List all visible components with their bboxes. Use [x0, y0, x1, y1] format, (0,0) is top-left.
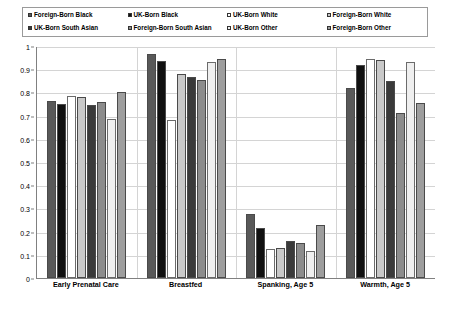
- bar: [57, 104, 66, 278]
- chart-legend: Foreign-Born BlackUK-Born BlackUK-Born W…: [22, 7, 428, 37]
- y-axis-tick-label: 0.5: [20, 160, 30, 167]
- y-axis-tick-mark: [31, 279, 34, 280]
- legend-label: UK-Born South Asian: [34, 25, 98, 31]
- y-axis-tick-mark: [31, 209, 34, 210]
- bar: [276, 248, 285, 278]
- bar: [266, 249, 275, 278]
- bar: [416, 103, 425, 278]
- y-axis-tick-mark: [31, 116, 34, 117]
- legend-item: UK-Born Other: [225, 25, 325, 31]
- bar: [47, 101, 56, 278]
- y-axis-tick-mark: [31, 93, 34, 94]
- bar-group: [137, 47, 237, 278]
- y-axis-tick-label: 0.3: [20, 206, 30, 213]
- bar: [207, 62, 216, 278]
- bar: [306, 251, 315, 278]
- legend-item: Foreign-Born White: [325, 12, 425, 18]
- legend-item: UK-Born South Asian: [26, 25, 126, 31]
- legend-swatch-icon: [327, 13, 331, 17]
- y-axis-tick-mark: [31, 70, 34, 71]
- bar: [177, 74, 186, 278]
- y-axis-tick-mark: [31, 186, 34, 187]
- y-axis-tick-label: 0.7: [20, 113, 30, 120]
- x-axis-category-label: Early Prenatal Care: [36, 281, 136, 288]
- bar: [217, 59, 226, 278]
- y-axis-tick-label: 0: [26, 276, 30, 283]
- y-axis-tick-mark: [31, 255, 34, 256]
- legend-swatch-icon: [128, 26, 132, 30]
- bar-group: [37, 47, 137, 278]
- bar-chart: Foreign-Born BlackUK-Born BlackUK-Born W…: [0, 0, 452, 319]
- legend-item: Foreign-Born South Asian: [126, 25, 226, 31]
- y-axis-tick-mark: [31, 47, 34, 48]
- y-axis-tick-label: 0.8: [20, 90, 30, 97]
- legend-item: Foreign-Born Black: [26, 12, 126, 18]
- legend-swatch-icon: [128, 13, 132, 17]
- bar: [346, 88, 355, 278]
- y-axis-tick-mark: [31, 163, 34, 164]
- bar: [396, 113, 405, 278]
- legend-label: Foreign-Born White: [333, 12, 392, 18]
- y-axis-labels: 10.90.80.70.60.50.40.30.20.10: [0, 47, 34, 279]
- bar: [117, 92, 126, 278]
- legend-item: Foreign-Born Other: [325, 25, 425, 31]
- y-axis-tick-label: 0.9: [20, 67, 30, 74]
- legend-label: Foreign-Born Other: [333, 25, 391, 31]
- legend-label: Foreign-Born South Asian: [134, 25, 212, 31]
- legend-label: UK-Born Black: [134, 12, 178, 18]
- x-axis-category-label: Spanking, Age 5: [236, 281, 336, 288]
- bar: [77, 97, 86, 278]
- bar: [356, 65, 365, 278]
- bar: [167, 120, 176, 278]
- bar: [246, 214, 255, 278]
- bar: [67, 96, 76, 278]
- bar: [187, 77, 196, 278]
- plot-area: [36, 47, 435, 279]
- legend-swatch-icon: [28, 26, 32, 30]
- x-axis-category-label: Warmth, Age 5: [335, 281, 435, 288]
- y-axis-tick-label: 1: [26, 44, 30, 51]
- bar: [97, 102, 106, 278]
- x-axis-labels: Early Prenatal CareBreastfedSpanking, Ag…: [36, 281, 435, 288]
- legend-item: UK-Born White: [225, 12, 325, 18]
- bar: [366, 59, 375, 278]
- legend-swatch-icon: [327, 26, 331, 30]
- y-axis-tick-mark: [31, 232, 34, 233]
- bar: [296, 243, 305, 278]
- y-axis-tick-label: 0.6: [20, 136, 30, 143]
- bar-group: [236, 47, 336, 278]
- legend-swatch-icon: [227, 26, 231, 30]
- bar: [386, 81, 395, 278]
- bar: [197, 80, 206, 278]
- y-axis-tick-label: 0.1: [20, 252, 30, 259]
- bar: [147, 54, 156, 278]
- bar-groups: [37, 47, 435, 278]
- x-axis-category-label: Breastfed: [136, 281, 236, 288]
- bar: [286, 241, 295, 278]
- legend-item: UK-Born Black: [126, 12, 226, 18]
- legend-label: UK-Born Other: [233, 25, 277, 31]
- y-axis-tick-label: 0.4: [20, 183, 30, 190]
- bar: [316, 225, 325, 278]
- y-axis-tick-label: 0.2: [20, 229, 30, 236]
- bar: [256, 228, 265, 278]
- legend-swatch-icon: [227, 13, 231, 17]
- bar: [87, 105, 96, 278]
- y-axis-tick-mark: [31, 139, 34, 140]
- legend-label: Foreign-Born Black: [34, 12, 92, 18]
- bar-group: [336, 47, 436, 278]
- legend-swatch-icon: [28, 13, 32, 17]
- bar: [107, 119, 116, 278]
- bar: [157, 61, 166, 278]
- bar: [376, 60, 385, 278]
- bar: [406, 62, 415, 278]
- legend-label: UK-Born White: [233, 12, 278, 18]
